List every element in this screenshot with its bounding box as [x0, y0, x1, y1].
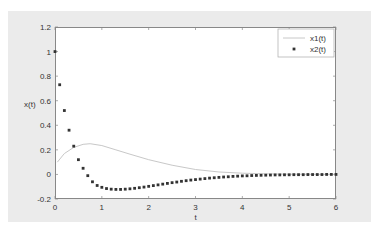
data-point	[194, 178, 197, 181]
y-tick-label: 0.4	[40, 121, 52, 130]
data-point	[260, 174, 263, 177]
data-point	[63, 109, 66, 112]
data-point	[58, 83, 61, 86]
data-point	[124, 188, 127, 191]
x-tick-label: 3	[193, 203, 198, 212]
y-tick-label: 1	[47, 48, 52, 57]
data-point	[91, 180, 94, 183]
data-point	[110, 188, 113, 191]
data-point	[138, 186, 141, 189]
y-tick-label: 1.2	[40, 23, 52, 32]
data-point	[68, 129, 71, 132]
data-point	[152, 184, 155, 187]
data-point	[255, 174, 258, 177]
data-point	[157, 183, 160, 186]
data-point	[114, 188, 117, 191]
data-point	[175, 181, 178, 184]
y-tick-label: 0.2	[40, 146, 52, 155]
data-point	[232, 175, 235, 178]
y-tick-label: 0.6	[40, 97, 52, 106]
data-point	[274, 174, 277, 177]
x-tick-label: 2	[146, 203, 151, 212]
data-point	[302, 173, 305, 176]
data-point	[321, 173, 324, 176]
x-tick-label: 0	[53, 203, 58, 212]
data-point	[330, 173, 333, 176]
data-point	[133, 187, 136, 190]
data-point	[96, 184, 99, 187]
legend-label: x1(t)	[310, 34, 326, 43]
data-point	[203, 177, 206, 180]
data-point	[86, 174, 89, 177]
data-point	[218, 176, 221, 179]
data-point	[325, 173, 328, 176]
data-point	[227, 175, 230, 178]
data-point	[54, 50, 57, 53]
chart-svg: -0.200.20.40.60.811.20123456tx(t)x1(t)x2…	[0, 0, 377, 234]
data-point	[283, 173, 286, 176]
data-point	[297, 173, 300, 176]
data-point	[161, 183, 164, 186]
data-point	[316, 173, 319, 176]
data-point	[269, 174, 272, 177]
data-point	[292, 173, 295, 176]
data-point	[143, 186, 146, 189]
y-tick-label: 0	[47, 170, 52, 179]
data-point	[311, 173, 314, 176]
data-point	[185, 179, 188, 182]
data-point	[100, 186, 103, 189]
legend-marker-icon	[293, 48, 296, 51]
data-point	[236, 175, 239, 178]
series-x1t-line	[57, 144, 336, 175]
data-point	[241, 175, 244, 178]
data-point	[213, 176, 216, 179]
data-point	[72, 145, 75, 148]
data-point	[180, 180, 183, 183]
x-tick-label: 1	[100, 203, 105, 212]
data-point	[222, 176, 225, 179]
data-point	[278, 174, 281, 177]
data-point	[171, 181, 174, 184]
x-tick-label: 6	[334, 203, 339, 212]
data-point	[82, 167, 85, 170]
data-point	[199, 178, 202, 181]
data-point	[250, 174, 253, 177]
data-point	[105, 187, 108, 190]
data-point	[246, 174, 249, 177]
y-tick-label: 0.8	[40, 72, 52, 81]
x-tick-label: 4	[240, 203, 245, 212]
y-tick-label: -0.2	[37, 195, 51, 204]
data-point	[264, 174, 267, 177]
x-tick-label: 5	[287, 203, 292, 212]
data-point	[307, 173, 310, 176]
data-point	[189, 179, 192, 182]
data-point	[335, 173, 338, 176]
data-point	[147, 185, 150, 188]
x-axis-label: t	[194, 213, 197, 222]
data-point	[208, 177, 211, 180]
data-point	[119, 188, 122, 191]
data-point	[288, 173, 291, 176]
data-point	[129, 187, 132, 190]
legend-label: x2(t)	[310, 45, 326, 54]
data-point	[166, 182, 169, 185]
data-point	[77, 158, 80, 161]
y-axis-label: x(t)	[24, 100, 36, 109]
